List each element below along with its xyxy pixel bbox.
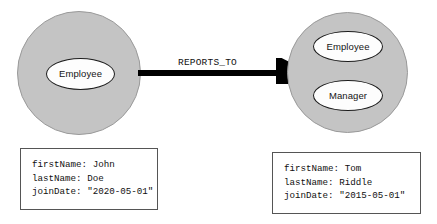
property-line: firstName: Tom bbox=[284, 162, 411, 176]
node-label-right-manager-text: Manager bbox=[329, 91, 367, 101]
property-box-left: firstName: John lastName: Doe joinDate: … bbox=[20, 148, 158, 210]
property-line: joinDate: "2020-05-01" bbox=[32, 185, 148, 199]
node-label-right-employee[interactable]: Employee bbox=[313, 31, 383, 62]
property-line: lastName: Riddle bbox=[284, 176, 411, 190]
property-line: firstName: John bbox=[32, 158, 148, 172]
node-label-right-employee-text: Employee bbox=[326, 42, 369, 52]
property-line: joinDate: "2015-05-01" bbox=[284, 189, 411, 203]
node-label-left-employee[interactable]: Employee bbox=[46, 58, 115, 90]
node-label-right-manager[interactable]: Manager bbox=[313, 80, 383, 111]
property-line: lastName: Doe bbox=[32, 172, 148, 186]
relationship-type-label: REPORTS_TO bbox=[178, 57, 237, 68]
property-box-right: firstName: Tom lastName: Riddle joinDate… bbox=[272, 152, 421, 214]
node-label-left-employee-text: Employee bbox=[59, 69, 102, 79]
diagram-canvas: Employee REPORTS_TO Employee Manager fir… bbox=[0, 0, 437, 224]
